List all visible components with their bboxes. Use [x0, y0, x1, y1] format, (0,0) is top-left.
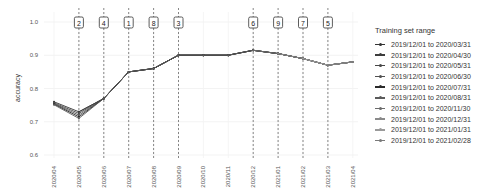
marker-label: 7 — [301, 20, 305, 27]
legend-swatch-icon — [375, 108, 385, 110]
legend-item: 2019/12/01 to 2020/03/31 — [375, 39, 471, 50]
x-tick-label: 2021/02 — [300, 165, 306, 187]
x-tick-label: 2020/12 — [250, 165, 256, 187]
legend-swatch-icon — [375, 97, 385, 99]
legend-item: 2019/12/01 to 2020/07/31 — [375, 82, 471, 93]
y-tick-label: 1.0 — [30, 19, 39, 25]
legend-swatch-icon — [375, 118, 385, 120]
marker-label: 5 — [326, 20, 330, 27]
marker-label: 9 — [276, 20, 280, 27]
marker-label: 6 — [251, 20, 255, 27]
x-tick-label: 2020/08 — [151, 165, 157, 187]
legend-label: 2019/12/01 to 2021/02/28 — [391, 137, 471, 144]
legend-swatch-icon — [375, 86, 385, 88]
x-tick-label: 2020/10 — [200, 165, 206, 187]
legend-label: 2019/12/01 to 2020/04/30 — [391, 52, 471, 59]
y-tick-label: 0.8 — [30, 86, 39, 92]
legend-label: 2019/12/01 to 2020/11/30 — [391, 105, 470, 112]
legend-swatch-icon — [375, 140, 385, 142]
marker-label: 3 — [177, 20, 181, 27]
legend-label: 2019/12/01 to 2020/08/31 — [391, 94, 471, 101]
legend-item: 2019/12/01 to 2020/04/30 — [375, 50, 471, 61]
legend-item: 2019/12/01 to 2020/11/30 — [375, 103, 471, 114]
x-tick-label: 2020/11 — [225, 165, 231, 187]
y-axis-label: accuracy — [14, 73, 22, 102]
legend-item: 2019/12/01 to 2021/01/31 — [375, 125, 471, 136]
marker-label: 1 — [127, 20, 131, 27]
x-tick-label: 2021/03 — [325, 165, 331, 187]
legend-swatch-icon — [375, 54, 385, 56]
marker-label: 4 — [102, 20, 106, 27]
x-tick-label: 2020/09 — [176, 165, 182, 187]
x-tick-label: 2021/01 — [275, 165, 281, 187]
legend-swatch-icon — [375, 76, 385, 78]
legend-swatch-icon — [375, 65, 385, 67]
y-tick-label: 0.6 — [30, 152, 39, 158]
legend-item: 2019/12/01 to 2020/05/31 — [375, 60, 471, 71]
marker-label: 2 — [77, 20, 81, 27]
legend-label: 2019/12/01 to 2020/07/31 — [391, 84, 471, 91]
legend-label: 2019/12/01 to 2020/03/31 — [391, 41, 471, 48]
marker-label: 8 — [152, 20, 156, 27]
series-line — [328, 62, 353, 65]
x-tick-label: 2020/07 — [126, 165, 132, 187]
legend-swatch-icon — [375, 129, 385, 131]
y-tick-label: 0.7 — [30, 119, 39, 125]
legend-label: 2019/12/01 to 2020/05/31 — [391, 62, 471, 69]
legend-item: 2019/12/01 to 2021/02/28 — [375, 135, 471, 146]
legend-title: Training set range — [375, 26, 471, 35]
legend-item: 2019/12/01 to 2020/06/30 — [375, 71, 471, 82]
legend-label: 2019/12/01 to 2021/01/31 — [391, 126, 471, 133]
legend-label: 2019/12/01 to 2020/12/31 — [391, 116, 471, 123]
x-tick-label: 2020/05 — [76, 165, 82, 187]
legend-label: 2019/12/01 to 2020/06/30 — [391, 73, 471, 80]
legend-item: 2019/12/01 to 2020/12/31 — [375, 114, 471, 125]
legend-item: 2019/12/01 to 2020/08/31 — [375, 92, 471, 103]
x-tick-label: 2020/04 — [51, 165, 57, 187]
x-tick-label: 2020/06 — [101, 165, 107, 187]
legend: Training set range 2019/12/01 to 2020/03… — [375, 26, 471, 146]
legend-swatch-icon — [375, 44, 385, 46]
y-tick-label: 0.9 — [30, 52, 39, 58]
x-tick-label: 2021/04 — [350, 165, 356, 187]
